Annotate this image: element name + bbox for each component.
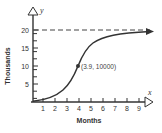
- y-axis-title: Thousands: [4, 47, 11, 84]
- y-axis-arrow-icon: [28, 7, 38, 15]
- y-tick-20: 20: [21, 27, 29, 34]
- x-tick-4: 4: [77, 105, 81, 112]
- curve-arrow-icon: [146, 28, 154, 35]
- x-tick-7: 7: [113, 105, 117, 112]
- y-axis-var: y: [39, 6, 44, 15]
- x-axis-arrow-icon: [145, 97, 153, 107]
- x-axis-title: Months: [77, 117, 102, 124]
- y-tick-10: 10: [21, 63, 29, 70]
- x-tick-1: 1: [41, 105, 45, 112]
- y-tick-5: 5: [25, 81, 29, 88]
- x-tick-2: 2: [53, 105, 57, 112]
- x-tick-3: 3: [65, 105, 69, 112]
- inflection-point: [76, 64, 80, 68]
- inflection-point-label: (3.9, 10000): [81, 63, 116, 71]
- x-tick-9: 9: [137, 105, 141, 112]
- y-ticks: [33, 30, 38, 98]
- logistic-chart: y x 5 10 15 20 Thousands 1 2 3 4 5 6: [0, 0, 162, 133]
- y-tick-15: 15: [21, 45, 29, 52]
- x-axis-var: x: [147, 88, 152, 97]
- x-tick-8: 8: [125, 105, 129, 112]
- x-tick-6: 6: [101, 105, 105, 112]
- x-tick-5: 5: [89, 105, 93, 112]
